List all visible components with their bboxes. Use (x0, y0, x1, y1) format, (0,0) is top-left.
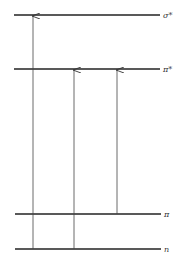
level-pi: π (15, 210, 170, 219)
level-label-pi-star: π* (162, 65, 172, 74)
level-label-sigma-star: σ* (163, 11, 172, 20)
level-label-n: n (164, 245, 169, 254)
level-label-pi: π (163, 210, 170, 219)
level-n: n (15, 245, 169, 254)
level-pi-star: π* (14, 65, 172, 74)
energy-level-diagram: σ* π* π n (0, 0, 182, 260)
level-sigma-star: σ* (14, 11, 172, 20)
